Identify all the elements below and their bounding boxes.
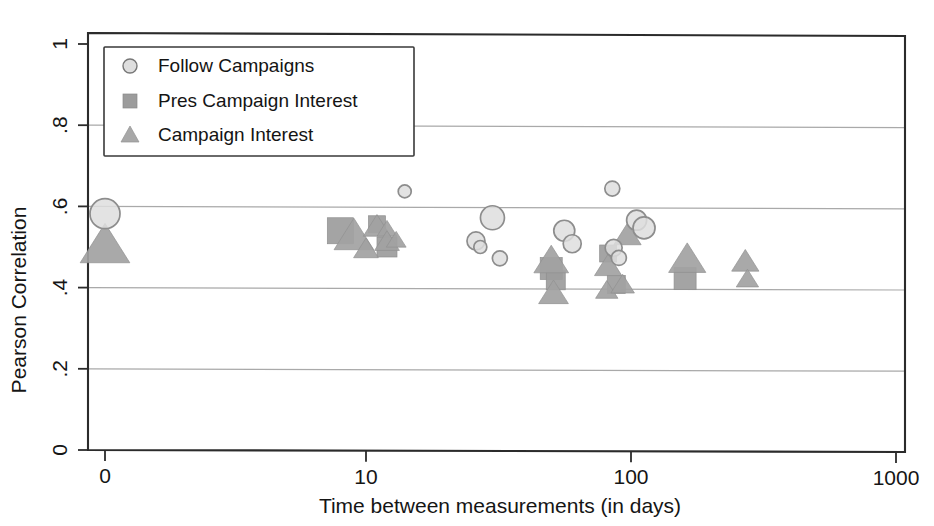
chart-legend: Follow CampaignsPres Campaign InterestCa…	[104, 47, 414, 156]
legend-marker-circle-icon	[123, 59, 137, 73]
y-tick-label: .2	[48, 360, 71, 378]
y-tick-label: 0	[48, 444, 71, 456]
data-point-triangle	[736, 269, 758, 287]
x-tick-label: 1000	[873, 466, 920, 489]
data-point-circle	[90, 199, 120, 229]
y-tick-label: .8	[48, 116, 71, 134]
data-point-circle	[398, 185, 411, 198]
data-point-triangle	[669, 243, 706, 273]
legend-marker-square-icon	[123, 94, 137, 108]
x-tick-label: 100	[613, 465, 648, 488]
data-point-triangle	[534, 245, 569, 273]
gridlines	[89, 125, 905, 371]
gridline	[89, 288, 905, 290]
y-axis-title: Pearson Correlation	[7, 207, 30, 394]
chart-root: 0.2.4.6.81 0101001000 Pearson Correlatio…	[0, 0, 934, 526]
x-tick-label: 10	[354, 465, 377, 488]
data-point-circle	[605, 181, 620, 196]
data-markers	[80, 181, 759, 304]
gridline	[89, 369, 905, 371]
data-point-circle	[474, 241, 487, 254]
data-point-circle	[633, 217, 655, 239]
y-axis-ticks: 0.2.4.6.81	[48, 38, 89, 456]
x-axis-ticks: 0101001000	[99, 450, 919, 489]
x-axis-title: Time between measurements (in days)	[319, 494, 681, 517]
y-tick-label: .6	[48, 198, 71, 216]
data-point-circle	[492, 251, 507, 266]
legend-label: Follow Campaigns	[158, 55, 314, 76]
y-tick-label: .4	[48, 279, 71, 297]
y-tick-label: 1	[48, 38, 71, 50]
data-point-circle	[480, 206, 504, 230]
legend-label: Pres Campaign Interest	[158, 90, 358, 111]
data-point-circle	[611, 250, 626, 265]
legend-label: Campaign Interest	[158, 124, 314, 145]
x-tick-label: 0	[99, 464, 111, 487]
scatter-plot-figure: 0.2.4.6.81 0101001000 Pearson Correlatio…	[0, 0, 934, 526]
data-point-triangle	[732, 249, 759, 271]
data-point-circle	[563, 235, 581, 253]
